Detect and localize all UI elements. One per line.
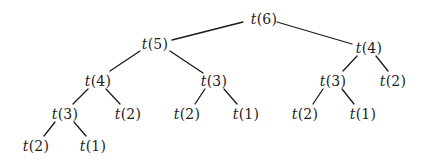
node-argument: (5) (148, 36, 168, 52)
tree-node-n1m: t(1) (233, 107, 259, 121)
node-argument: (2) (298, 106, 318, 122)
node-argument: (2) (386, 73, 406, 89)
tree-node-n2l: t(2) (115, 107, 141, 121)
tree-edge-n5-n3m (170, 51, 203, 73)
tree-edge-n4r-n2r (376, 56, 388, 71)
tree-node-n2m: t(2) (174, 107, 200, 121)
tree-node-n4l: t(4) (85, 74, 111, 88)
node-argument: (2) (29, 138, 49, 154)
node-argument: (3) (207, 73, 227, 89)
tree-edge-n3m-n1m (224, 89, 237, 104)
node-argument: (4) (362, 40, 382, 56)
node-argument: (3) (326, 73, 346, 89)
node-argument: (4) (91, 73, 111, 89)
tree-edge-n3r-n2rr (313, 89, 323, 104)
node-argument: (3) (58, 106, 78, 122)
node-argument: (1) (239, 106, 259, 122)
tree-node-n1r: t(1) (350, 107, 376, 121)
node-argument: (2) (121, 106, 141, 122)
node-argument: (2) (180, 106, 200, 122)
tree-edge-n3r-n1r (342, 89, 354, 104)
recursion-tree-diagram: t(6)t(5)t(4)t(4)t(3)t(3)t(2)t(3)t(2)t(2)… (0, 0, 423, 164)
tree-node-n3r: t(3) (320, 74, 346, 88)
tree-node-n4r: t(4) (356, 41, 382, 55)
tree-node-n6: t(6) (251, 12, 277, 26)
tree-edge-n6-n4r (277, 22, 352, 44)
tree-edge-n3l-n1ll (74, 122, 86, 136)
tree-edge-n3l-n2ll (44, 122, 55, 136)
tree-edge-n5-n4l (110, 51, 140, 71)
tree-node-n3m: t(3) (201, 74, 227, 88)
node-argument: (6) (257, 11, 277, 27)
tree-node-n2r: t(2) (380, 74, 406, 88)
node-argument: (1) (356, 106, 376, 122)
tree-node-n5: t(5) (142, 37, 168, 51)
node-argument: (1) (86, 138, 106, 154)
tree-node-n3l: t(3) (52, 107, 78, 121)
tree-node-n2rr: t(2) (292, 107, 318, 121)
tree-node-n2ll: t(2) (23, 139, 49, 153)
tree-edge-n4l-n2l (106, 89, 120, 104)
tree-edge-n3m-n2m (195, 89, 205, 104)
tree-edge-n4r-n3r (343, 56, 357, 71)
tree-edge-n4l-n3l (73, 89, 88, 104)
tree-node-n1ll: t(1) (80, 139, 106, 153)
tree-edge-n6-n5 (172, 22, 243, 40)
